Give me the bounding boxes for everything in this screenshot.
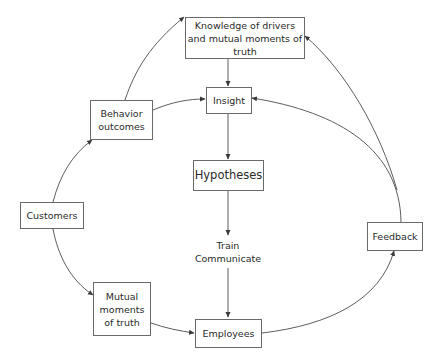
node-hypotheses-label: Hypotheses: [195, 169, 263, 182]
label-train-communicate: Train Communicate: [188, 239, 268, 265]
node-feedback: Feedback: [367, 222, 423, 251]
edge-employees-feedback: [262, 251, 394, 333]
node-customers-label: Customers: [26, 209, 77, 222]
train-communicate-text: Train Communicate: [195, 240, 261, 264]
node-mutual-moments: Mutual moments of truth: [93, 282, 151, 336]
node-insight: Insight: [206, 87, 252, 114]
edge-customers-mutual: [53, 229, 93, 295]
edge-behavior-knowledge: [125, 17, 184, 100]
node-insight-label: Insight: [213, 94, 245, 107]
node-employees: Employees: [195, 319, 262, 348]
node-behavior-outcomes-label: Behavior outcomes: [98, 107, 145, 133]
node-knowledge: Knowledge of drivers and mutual moments …: [185, 17, 305, 59]
edge-behavior-insight: [153, 99, 205, 110]
node-customers: Customers: [20, 202, 84, 229]
node-hypotheses: Hypotheses: [193, 160, 264, 191]
node-employees-label: Employees: [203, 327, 255, 340]
edge-feedback-insight: [252, 98, 401, 222]
node-behavior-outcomes: Behavior outcomes: [90, 100, 153, 140]
edge-mutual-employees: [151, 323, 194, 333]
node-knowledge-label: Knowledge of drivers and mutual moments …: [186, 19, 304, 58]
edge-customers-behavior: [53, 140, 92, 202]
edge-feedback-knowledge: [305, 36, 397, 190]
node-mutual-moments-label: Mutual moments of truth: [100, 290, 145, 329]
node-feedback-label: Feedback: [372, 230, 417, 243]
